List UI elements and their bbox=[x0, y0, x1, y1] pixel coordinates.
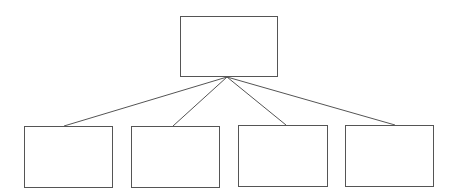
child-node-2-box bbox=[132, 127, 220, 188]
root-node bbox=[181, 17, 278, 77]
child-node-4-box bbox=[346, 126, 434, 187]
connector-line-3 bbox=[227, 77, 286, 125]
connector-line-2 bbox=[173, 77, 227, 126]
child-node-3 bbox=[239, 126, 328, 187]
root-node-box bbox=[181, 17, 278, 77]
child-node-3-box bbox=[239, 126, 328, 187]
connector-line-1 bbox=[64, 77, 227, 126]
child-node-1-box bbox=[25, 127, 113, 188]
tree-nodes bbox=[25, 17, 434, 188]
child-node-1 bbox=[25, 127, 113, 188]
child-node-4 bbox=[346, 126, 434, 187]
connector-lines bbox=[64, 77, 395, 126]
connector-line-4 bbox=[227, 77, 395, 125]
child-node-2 bbox=[132, 127, 220, 188]
org-tree-diagram bbox=[0, 0, 454, 196]
